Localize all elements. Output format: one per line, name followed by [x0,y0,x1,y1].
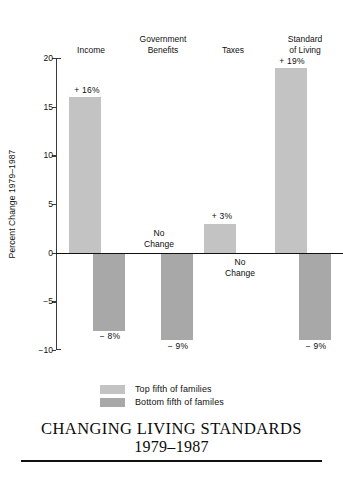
y-tick-label: −10 [39,346,53,355]
zero-baseline [56,253,343,255]
bar-taxes-top-fifth [204,224,236,253]
category-header-income: Income [56,45,126,56]
legend-label-bottom-fifth: Bottom fifth of familes [135,398,224,407]
bar-label-government-benefits-top-fifth: No Change [134,228,184,249]
legend-swatch-top-fifth [100,385,125,394]
bar-standard-of-living-top-fifth [275,68,307,253]
bar-standard-of-living-bottom-fifth [299,253,331,341]
category-header-government-benefits: Government Benefits [124,34,202,55]
title-divider-rule [21,460,322,462]
category-header-standard-of-living: Standard of Living [268,34,342,55]
category-header-taxes: Taxes [202,45,264,56]
legend-label-top-fifth: Top fifth of families [135,385,212,394]
bar-label-taxes-top-fifth: + 3% [200,212,244,221]
chart-title: CHANGING LIVING STANDARDS [0,419,343,438]
bar-label-government-benefits-bottom-fifth: − 9% [156,342,200,351]
y-tick-label: −5 [43,297,53,306]
bar-label-income-top-fifth: + 16% [65,86,109,95]
bar-government-benefits-bottom-fifth [161,253,193,341]
y-tick-label: 5 [48,200,53,209]
bar-income-top-fifth [69,97,101,253]
legend-item-bottom-fifth: Bottom fifth of familes [100,396,300,408]
plot-area: 20 15 10 5 0 −5 −10 + 16% [56,58,343,350]
bar-label-standard-of-living-bottom-fifth: − 9% [294,342,338,351]
y-axis-top-cap [56,58,61,59]
y-tick-label: 20 [44,54,53,63]
legend-swatch-bottom-fifth [100,398,125,407]
legend-item-top-fifth: Top fifth of families [100,383,300,395]
chart-figure: Income Government Benefits Taxes Standar… [0,0,343,481]
chart-title-block: CHANGING LIVING STANDARDS 1979–1987 [0,419,343,456]
y-axis-bottom-cap [56,349,61,350]
bar-label-taxes-bottom-fifth: No Change [214,257,266,278]
chart-subtitle: 1979–1987 [0,438,343,456]
y-axis-title-text: Percent Change 1979–1987 [7,150,17,259]
y-axis-title: Percent Change 1979–1987 [6,58,18,350]
bar-label-income-bottom-fifth: − 8% [88,332,132,341]
y-tick-label: 0 [48,248,53,257]
category-header-row: Income Government Benefits Taxes Standar… [56,21,343,55]
bar-label-standard-of-living-top-fifth: + 19% [270,57,314,66]
legend: Top fifth of families Bottom fifth of fa… [100,383,300,409]
bar-income-bottom-fifth [93,253,125,331]
y-tick-label: 15 [44,102,53,111]
y-tick-label: 10 [44,151,53,160]
y-axis-line [56,58,57,350]
